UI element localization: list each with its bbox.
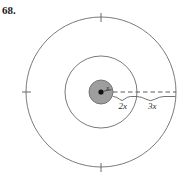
figure-root: 68. x 2x 3x [0, 0, 188, 189]
outer-band-label: 3x [147, 101, 157, 111]
center-point-dot [98, 89, 103, 94]
concentric-circles-diagram: x 2x 3x [0, 0, 188, 189]
inner-radius-label: x [105, 84, 109, 91]
middle-band-label: 2x [119, 101, 128, 111]
